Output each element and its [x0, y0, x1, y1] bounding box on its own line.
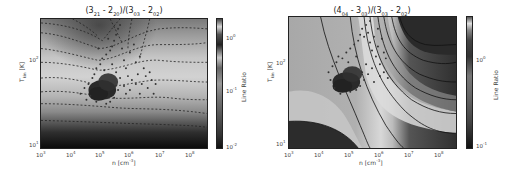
right-x-tick-1e6: 106 — [374, 150, 384, 158]
left-colorbar — [216, 18, 223, 149]
right-colorbar — [466, 16, 473, 149]
left-x-tick-1e8: 108 — [185, 150, 195, 158]
right-heatmap-plot — [288, 16, 457, 149]
left-x-tick-1e7: 107 — [155, 150, 165, 158]
right-colorbar-label: Line Ratio — [492, 70, 499, 100]
left-colorbar-gradient — [217, 19, 222, 148]
right-colorbar-gradient — [467, 17, 472, 148]
right-x-tick-1e8: 108 — [434, 150, 444, 158]
right-cb-tick-1e-1: 10-1 — [476, 141, 487, 149]
left-chart-title: (321 - 220)/(303 - 202) — [40, 6, 208, 17]
right-x-axis-label: n [cm-3] — [359, 158, 383, 166]
left-colorbar-label: Line Ratio — [240, 72, 247, 102]
right-x-tick-1e3: 103 — [284, 150, 294, 158]
left-heatmap-plot — [40, 18, 208, 149]
left-y-tick-1e1: 101 — [29, 140, 39, 148]
left-cb-tick-1e0: 100 — [226, 33, 236, 41]
right-x-tick-1e5: 105 — [344, 150, 354, 158]
right-chart-panel: (404 - 303)/(303 - 202) — [255, 0, 515, 173]
left-heatmap-graphic — [41, 19, 207, 148]
left-y-axis-label: Tkin [K] — [18, 62, 27, 82]
left-x-tick-1e4: 104 — [66, 150, 76, 158]
left-x-tick-1e5: 105 — [95, 150, 105, 158]
left-x-tick-1e3: 103 — [36, 150, 46, 158]
left-cb-tick-1e-1: 10-1 — [226, 86, 237, 94]
right-chart-title: (404 - 303)/(303 - 202) — [288, 6, 456, 17]
right-heatmap-graphic — [289, 17, 456, 148]
right-y-axis-label: Tkin [K] — [266, 62, 275, 82]
left-x-tick-1e6: 106 — [124, 150, 134, 158]
left-y-tick-1e2: 102 — [29, 55, 39, 63]
right-y-tick-1e2: 102 — [276, 58, 286, 66]
right-x-tick-1e7: 107 — [404, 150, 414, 158]
left-x-axis-label: n [cm-3] — [112, 158, 136, 166]
right-y-tick-1e1: 101 — [276, 139, 286, 147]
left-chart-panel: (321 - 220)/(303 - 202) — [0, 0, 258, 173]
left-cb-tick-1e-2: 10-2 — [226, 142, 237, 150]
right-cb-tick-1e0: 100 — [476, 55, 486, 63]
right-x-tick-1e4: 104 — [314, 150, 324, 158]
